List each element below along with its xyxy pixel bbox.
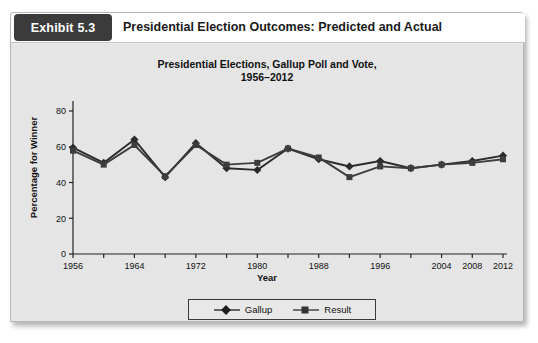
svg-text:2008: 2008 — [462, 261, 482, 271]
svg-text:40: 40 — [56, 178, 66, 188]
legend-item-gallup: Gallup — [213, 304, 272, 316]
exhibit-title: Presidential Election Outcomes: Predicte… — [123, 13, 442, 42]
svg-text:1964: 1964 — [124, 261, 144, 271]
svg-text:60: 60 — [56, 142, 66, 152]
svg-text:80: 80 — [56, 106, 66, 116]
svg-text:0: 0 — [61, 249, 66, 259]
legend-item-result: Result — [292, 304, 351, 316]
svg-text:1956: 1956 — [63, 261, 83, 271]
chart-plot: 0204060801956196419721980198819962004200… — [11, 44, 523, 321]
svg-text:1980: 1980 — [247, 261, 267, 271]
chart-legend: Gallup Result — [188, 299, 376, 320]
exhibit-number-badge: Exhibit 5.3 — [14, 14, 112, 41]
exhibit-header: Exhibit 5.3 Presidential Election Outcom… — [11, 13, 525, 43]
svg-text:1972: 1972 — [186, 261, 206, 271]
chart-area: Presidential Elections, Gallup Poll and … — [11, 44, 523, 321]
legend-label-result: Result — [324, 304, 351, 315]
svg-text:1988: 1988 — [309, 261, 329, 271]
legend-marker-diamond-icon — [213, 304, 241, 316]
legend-marker-square-icon — [292, 304, 320, 316]
legend-label-gallup: Gallup — [245, 304, 272, 315]
svg-text:2004: 2004 — [432, 261, 452, 271]
svg-text:20: 20 — [56, 214, 66, 224]
exhibit-panel: Exhibit 5.3 Presidential Election Outcom… — [10, 12, 524, 322]
svg-text:2012: 2012 — [493, 261, 513, 271]
svg-text:1996: 1996 — [370, 261, 390, 271]
